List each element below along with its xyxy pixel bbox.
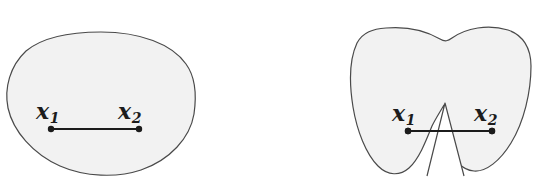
convex-point-x2-dot [136, 126, 142, 132]
figure-canvas: x1 x2 x1 x2 [0, 0, 538, 182]
nonconvex-point-x1-dot-overlay [405, 128, 411, 134]
convex-blob-shape [7, 32, 195, 175]
nonconvex-point-x2-dot-overlay [489, 128, 495, 134]
figure-svg [0, 0, 538, 182]
convex-set-panel [7, 32, 195, 175]
convex-point-x1-dot [48, 126, 54, 132]
